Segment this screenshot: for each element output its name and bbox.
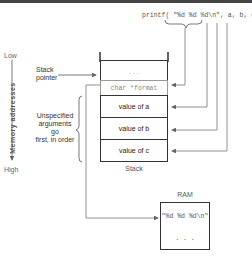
ram-box: "%d %d %d\n" . . . (160, 202, 210, 250)
note-line1: Unspecified (34, 112, 76, 120)
printf-call: printf( "%d %d %d\n", a, b, c ) (142, 12, 252, 20)
stack-pointer-label: Stack pointer (36, 66, 57, 82)
axis-low-label: Low (4, 52, 17, 60)
axis-label: Memory addresses (9, 82, 16, 153)
ram-title: RAM (160, 191, 210, 199)
stack-cell-c: value of c (100, 139, 168, 162)
note-line2: arguments go (34, 120, 76, 136)
stack-cell-format: char *format (100, 80, 168, 96)
ram-format-string: "%d %d %d\n" (161, 213, 209, 220)
stack-pointer-line1: Stack (36, 66, 57, 74)
axis-high-label: High (4, 166, 18, 174)
unspecified-args-note: Unspecified arguments go first, in order (34, 112, 76, 144)
ram-ellipsis: . . . (161, 235, 209, 242)
stack-cell-ellipsis: . . . (100, 60, 168, 82)
stack-cell-b: value of b (100, 117, 168, 140)
note-line3: first, in order (34, 136, 76, 144)
stack-pointer-line2: pointer (36, 74, 57, 82)
stack-title: Stack (100, 165, 168, 173)
stack-cell-a: value of a (100, 95, 168, 118)
